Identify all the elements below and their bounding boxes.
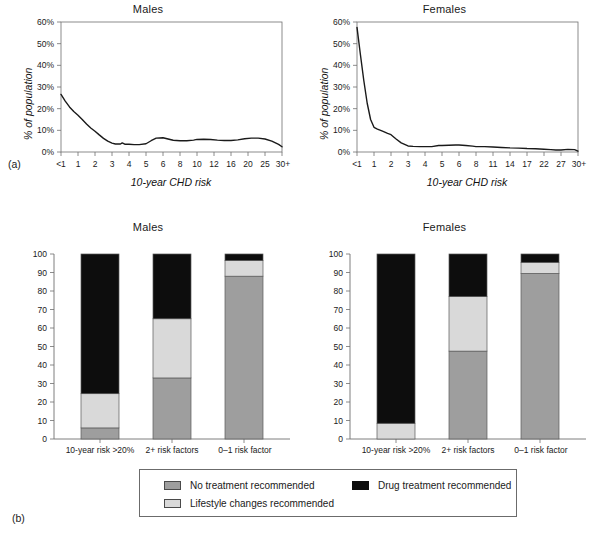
bar-segment xyxy=(377,254,415,423)
svg-text:50%: 50% xyxy=(333,39,350,49)
xtick-label: 2+ risk factors xyxy=(427,446,509,455)
svg-text:20: 20 xyxy=(334,397,344,407)
svg-text:30: 30 xyxy=(38,379,48,389)
chart-b-males: Males % of population xyxy=(0,215,296,460)
legend-label: Lifestyle changes recommended xyxy=(190,498,334,509)
svg-text:20%: 20% xyxy=(37,104,54,114)
xtick-label: 2+ risk factors xyxy=(131,446,213,455)
bar-segment xyxy=(225,276,263,439)
legend-label: Drug treatment recommended xyxy=(378,480,511,491)
bar-segment xyxy=(153,319,191,378)
bar-segment xyxy=(81,428,119,439)
svg-text:80: 80 xyxy=(334,286,344,296)
svg-text:70: 70 xyxy=(334,305,344,315)
svg-text:50%: 50% xyxy=(37,39,54,49)
svg-text:40: 40 xyxy=(334,360,344,370)
svg-text:0%: 0% xyxy=(42,147,55,157)
legend-item-lifestyle: Lifestyle changes recommended xyxy=(164,498,334,509)
bar-segment xyxy=(521,262,559,273)
svg-text:30: 30 xyxy=(334,379,344,389)
svg-text:40: 40 xyxy=(38,360,48,370)
legend: No treatment recommended Lifestyle chang… xyxy=(139,469,517,517)
chart-b-females-plot: 0 10 20 30 40 50 60 70 80 90 100 xyxy=(296,215,593,460)
svg-text:50: 50 xyxy=(38,342,48,352)
bar-segment xyxy=(225,260,263,276)
chart-a-females-x-title: 10-year CHD risk xyxy=(352,176,582,188)
svg-text:20: 20 xyxy=(38,397,48,407)
svg-text:30%: 30% xyxy=(37,82,54,92)
panel-b-label: (b) xyxy=(12,512,25,524)
bar-segment xyxy=(521,273,559,439)
svg-text:60: 60 xyxy=(38,323,48,333)
chart-a-females: Females % of population 10-year CHD risk… xyxy=(296,0,593,200)
bar-segment xyxy=(153,378,191,439)
legend-label: No treatment recommended xyxy=(190,480,315,491)
svg-text:90: 90 xyxy=(334,268,344,278)
bar-segment xyxy=(449,351,487,439)
legend-item-drug: Drug treatment recommended xyxy=(352,480,511,491)
svg-text:100: 100 xyxy=(33,249,47,259)
bar-segment xyxy=(225,254,263,260)
svg-text:80: 80 xyxy=(38,286,48,296)
svg-text:10%: 10% xyxy=(333,125,350,135)
bar-segment xyxy=(521,254,559,262)
panel-b: (b) Males % of population xyxy=(0,215,593,542)
svg-text:60: 60 xyxy=(334,323,344,333)
figure-root: (a) Males % of population 10-year CHD ri… xyxy=(0,0,593,542)
bar-segment xyxy=(81,394,119,428)
xtick-label: 30+ xyxy=(568,160,590,169)
svg-text:10: 10 xyxy=(38,416,48,426)
chart-a-males: Males % of population 10-year CHD risk xyxy=(0,0,296,200)
chart-b-females: Females % of population xyxy=(296,215,593,460)
legend-swatch-lifestyle xyxy=(164,499,181,508)
bar-segment xyxy=(449,297,487,352)
svg-text:50: 50 xyxy=(334,342,344,352)
svg-text:30%: 30% xyxy=(333,82,350,92)
svg-text:100: 100 xyxy=(329,249,343,259)
legend-swatch-drug xyxy=(352,481,369,490)
bar-segment xyxy=(377,423,415,439)
svg-text:10%: 10% xyxy=(37,125,54,135)
svg-text:60%: 60% xyxy=(37,17,54,27)
xtick-label: 0–1 risk factor xyxy=(205,446,285,455)
chart-b-males-plot: 0 10 20 30 40 50 60 70 80 90 100 xyxy=(0,215,296,460)
bar-segment xyxy=(153,254,191,319)
chart-b-females-bars xyxy=(377,254,559,439)
panel-a: (a) Males % of population 10-year CHD ri… xyxy=(0,0,593,200)
svg-text:60%: 60% xyxy=(333,17,350,27)
svg-text:0: 0 xyxy=(338,434,343,444)
svg-text:10: 10 xyxy=(334,416,344,426)
xtick-label: 0–1 risk factor xyxy=(501,446,581,455)
legend-swatch-no-treatment xyxy=(164,481,181,490)
svg-text:40%: 40% xyxy=(37,60,54,70)
svg-text:90: 90 xyxy=(38,268,48,278)
xtick-label: 30+ xyxy=(272,160,294,169)
svg-text:70: 70 xyxy=(38,305,48,315)
svg-text:0%: 0% xyxy=(338,147,351,157)
bar-segment xyxy=(81,254,119,394)
legend-item-no-treatment: No treatment recommended xyxy=(164,480,315,491)
chart-a-females-plot: 0% 10% 20% 30% 40% 50% 60% xyxy=(296,0,593,175)
svg-text:40%: 40% xyxy=(333,60,350,70)
bar-segment xyxy=(449,254,487,297)
chart-a-males-plot: 0% 10% 20% 30% 40% 50% 60% xyxy=(0,0,296,175)
chart-a-males-x-title: 10-year CHD risk xyxy=(56,176,286,188)
svg-text:0: 0 xyxy=(42,434,47,444)
svg-text:20%: 20% xyxy=(333,104,350,114)
chart-b-males-bars xyxy=(81,254,263,439)
